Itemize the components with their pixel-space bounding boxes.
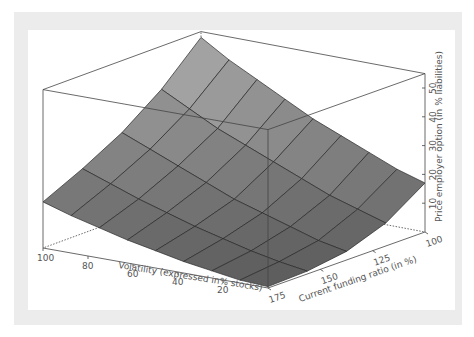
price-surface [43,37,425,286]
y-tick-label: 175 [267,290,287,305]
x-tick-label: 80 [82,261,94,271]
surface-chart: 100806040201751501251001020304050 Volati… [0,0,474,337]
z-axis-label: Price employer option (in % liabilities) [434,51,444,222]
x-tick-label: 100 [37,253,54,263]
y-tick-label: 100 [424,234,444,249]
